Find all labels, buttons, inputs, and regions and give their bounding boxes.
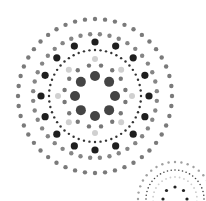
- dot: [149, 184, 151, 186]
- dot: [202, 174, 204, 176]
- dot: [195, 178, 197, 180]
- dot: [153, 108, 157, 112]
- dot: [92, 130, 98, 136]
- dot: [93, 17, 97, 21]
- dot: [124, 60, 126, 62]
- dot: [46, 155, 50, 159]
- dot: [159, 132, 163, 136]
- dot: [56, 121, 58, 123]
- dot: [165, 178, 167, 180]
- dot: [53, 54, 60, 61]
- dot: [147, 187, 149, 189]
- dot: [132, 69, 134, 71]
- dot: [120, 133, 122, 135]
- dot: [91, 146, 98, 153]
- dot: [186, 163, 188, 165]
- dot: [190, 183, 192, 185]
- dot: [16, 84, 20, 88]
- dot: [62, 88, 66, 92]
- dot: [112, 43, 119, 50]
- dot: [68, 133, 70, 135]
- dot: [113, 19, 117, 23]
- dot: [73, 168, 77, 172]
- dot: [46, 33, 50, 37]
- dot: [128, 125, 130, 127]
- dot: [49, 84, 51, 86]
- dot: [110, 52, 112, 54]
- dot: [178, 169, 180, 171]
- dot: [146, 191, 148, 193]
- dot: [33, 108, 37, 112]
- dot: [133, 141, 137, 145]
- dot: [53, 116, 55, 118]
- dot: [137, 191, 139, 193]
- dot: [135, 116, 137, 118]
- dot: [138, 106, 140, 108]
- dot: [88, 32, 92, 36]
- dot: [142, 179, 144, 181]
- dot: [107, 34, 111, 38]
- dot: [158, 183, 160, 185]
- dot: [103, 17, 107, 21]
- dot: [138, 84, 140, 86]
- dot: [63, 129, 65, 131]
- dot: [161, 163, 163, 165]
- dot: [123, 88, 127, 92]
- dot: [155, 89, 159, 93]
- dark-dot-ring: [37, 38, 152, 153]
- dot: [167, 170, 169, 172]
- dot: [135, 73, 137, 75]
- dot: [76, 68, 80, 72]
- dot: [187, 180, 189, 182]
- mini-fine-dotted-ring: [145, 169, 205, 201]
- dot: [103, 170, 107, 174]
- dot: [32, 141, 36, 145]
- dot: [87, 124, 91, 128]
- dot: [153, 79, 157, 83]
- dot: [203, 198, 205, 200]
- dot: [154, 47, 158, 51]
- dot: [88, 156, 92, 160]
- dot: [154, 141, 158, 145]
- dot: [137, 198, 139, 200]
- dot: [38, 39, 42, 43]
- dot: [167, 114, 171, 118]
- dot: [59, 125, 61, 127]
- dot: [174, 169, 176, 171]
- dot: [66, 119, 72, 125]
- dot: [88, 140, 90, 142]
- pale-ring: [55, 56, 135, 136]
- dot: [195, 191, 197, 193]
- dot: [83, 170, 87, 174]
- dot: [193, 187, 195, 189]
- dot: [87, 63, 91, 67]
- dot: [59, 64, 61, 66]
- dot: [98, 156, 102, 160]
- dot: [201, 187, 203, 189]
- dot: [174, 176, 176, 178]
- dot: [120, 57, 122, 59]
- dot: [71, 43, 78, 50]
- dot: [167, 74, 171, 78]
- dot: [70, 91, 80, 101]
- dot: [62, 100, 66, 104]
- dot: [32, 47, 36, 51]
- dot: [189, 173, 191, 175]
- dot: [118, 119, 124, 125]
- dot: [140, 33, 144, 37]
- dot: [123, 100, 127, 104]
- dot: [60, 41, 64, 45]
- dot: [131, 27, 135, 31]
- dot: [147, 39, 151, 43]
- dot: [118, 67, 124, 73]
- dot: [98, 32, 102, 36]
- dot: [159, 55, 163, 59]
- dot: [155, 99, 159, 103]
- dot: [185, 197, 188, 200]
- dot: [163, 171, 165, 173]
- dot: [141, 113, 148, 120]
- dot: [67, 77, 71, 81]
- dot: [16, 94, 20, 98]
- dot: [122, 23, 126, 27]
- dot: [54, 160, 58, 164]
